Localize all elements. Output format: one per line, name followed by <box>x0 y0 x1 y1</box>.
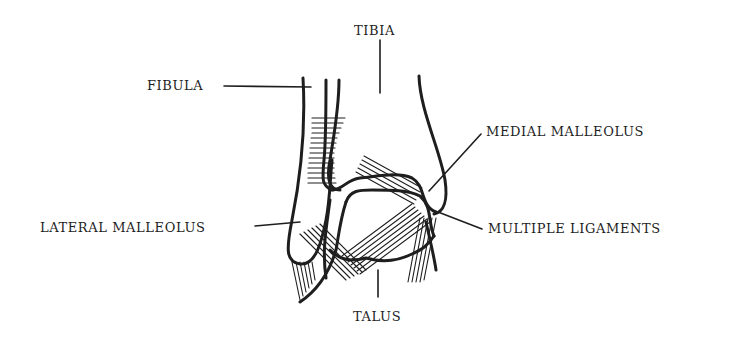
label-talus: TALUS <box>353 310 401 323</box>
label-tibia: TIBIA <box>354 24 395 37</box>
multiple-ligaments-leader <box>438 212 482 229</box>
medial-malleolus-leader <box>429 134 481 191</box>
label-fibula: FIBULA <box>147 79 203 92</box>
fibula-leader <box>224 86 311 87</box>
lateral-malleolus-leader <box>255 222 300 226</box>
label-medial-malleolus: MEDIAL MALLEOLUS <box>486 125 644 138</box>
label-lateral-malleolus: LATERAL MALLEOLUS <box>40 221 206 234</box>
ankle-diagram: TIBIA FIBULA MEDIAL MALLEOLUS LATERAL MA… <box>0 0 743 348</box>
tibia-plafond <box>333 175 436 212</box>
label-multiple-ligaments: MULTIPLE LIGAMENTS <box>488 222 661 235</box>
ankle-illustration <box>0 0 743 348</box>
